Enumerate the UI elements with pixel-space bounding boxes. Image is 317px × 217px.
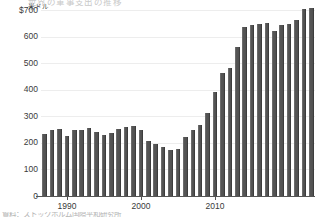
bar	[287, 24, 292, 196]
bar	[50, 130, 55, 196]
bar	[183, 137, 188, 196]
bar	[153, 144, 158, 196]
bar	[168, 150, 173, 197]
bar-series	[41, 10, 315, 196]
x-tick-label: 2000	[132, 201, 151, 211]
x-tick-label: 1990	[57, 201, 76, 211]
bar	[235, 47, 240, 196]
y-axis-labels: $7006005004003002001000	[0, 10, 38, 197]
clipped-source-strip: 資料：ストックホルム国際平和研究所	[0, 212, 317, 217]
bar	[294, 20, 299, 196]
bar	[257, 24, 262, 196]
x-tick-mark	[67, 197, 68, 200]
bar	[265, 23, 270, 197]
bar	[131, 126, 136, 196]
y-tick-label: 200	[0, 138, 38, 147]
bar	[65, 136, 70, 196]
bar	[250, 25, 255, 196]
bar	[220, 73, 225, 196]
x-tick-mark	[215, 197, 216, 200]
bar	[242, 27, 247, 196]
bar	[213, 92, 218, 196]
y-tick-label: 0	[0, 192, 38, 201]
bar	[228, 68, 233, 196]
y-tick-label: $700	[0, 6, 38, 15]
bar	[87, 128, 92, 196]
bar	[205, 113, 210, 196]
x-tick-label: 2010	[206, 201, 225, 211]
bar	[109, 133, 114, 196]
y-tick-label: 400	[0, 85, 38, 94]
bar	[72, 130, 77, 196]
chart-source-clipped: 資料：ストックホルム国際平和研究所	[2, 212, 121, 217]
bar	[79, 130, 84, 196]
bar	[198, 125, 203, 196]
bar	[139, 130, 144, 196]
y-tick-label: 100	[0, 165, 38, 174]
y-tick-label: 500	[0, 59, 38, 68]
bar	[57, 129, 62, 196]
x-tick-mark	[141, 197, 142, 200]
bar	[146, 141, 151, 196]
y-tick-label: 600	[0, 32, 38, 41]
plot-area	[41, 10, 315, 197]
bar	[302, 9, 307, 196]
bar	[191, 130, 196, 196]
y-tick-label: 300	[0, 112, 38, 121]
chart-page: 世界の軍事支出の推移 米ドル $7006005004003002001000 1…	[0, 0, 317, 217]
bar	[176, 149, 181, 196]
bar	[94, 132, 99, 196]
bar	[161, 147, 166, 196]
bar	[42, 134, 47, 196]
bar	[272, 31, 277, 196]
bar	[279, 25, 284, 196]
bar	[116, 129, 121, 196]
bar	[309, 8, 314, 196]
bar	[124, 127, 129, 196]
bar	[102, 135, 107, 196]
